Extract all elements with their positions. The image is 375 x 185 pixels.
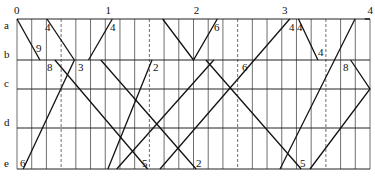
- station-label-b: b: [4, 48, 10, 60]
- train-label: 4: [110, 21, 116, 33]
- train-label: 2: [153, 61, 159, 73]
- hour-label: 0: [14, 4, 20, 16]
- train-label: 5: [142, 157, 148, 169]
- train-label: 6: [20, 157, 26, 169]
- train-label: 2: [196, 157, 202, 169]
- hour-label: 2: [194, 4, 200, 16]
- train-path: [89, 19, 113, 60]
- train-path: [55, 60, 148, 169]
- axis-labels: 01234abcde: [4, 4, 374, 169]
- train-label: 4: [45, 21, 51, 33]
- train-label: 4: [297, 21, 303, 33]
- station-label-a: a: [4, 19, 9, 31]
- train-label: 4: [289, 21, 295, 33]
- train-path: [206, 60, 301, 169]
- station-label-e: e: [4, 157, 9, 169]
- station-label-c: c: [4, 77, 9, 89]
- train-label: 4: [318, 46, 324, 58]
- train-label: 6: [242, 61, 248, 73]
- train-label: 5: [300, 157, 306, 169]
- train-path: [47, 19, 74, 60]
- station-label-d: d: [4, 116, 10, 128]
- hour-label: 1: [106, 4, 112, 16]
- train-path: [163, 19, 218, 60]
- timetable-diagram: 01234abcde 9485634226654448: [0, 0, 375, 185]
- train-label: 3: [78, 61, 84, 73]
- train-path: [280, 19, 355, 169]
- train-label: 6: [214, 21, 220, 33]
- hour-label: 4: [368, 4, 374, 16]
- train-labels: 9485634226654448: [20, 21, 349, 169]
- train-path: [23, 60, 74, 169]
- train-path: [117, 60, 214, 169]
- train-label: 8: [47, 61, 53, 73]
- train-label: 9: [36, 42, 42, 54]
- train-path: [310, 60, 370, 169]
- hour-label: 3: [282, 4, 288, 16]
- train-label: 8: [343, 61, 349, 73]
